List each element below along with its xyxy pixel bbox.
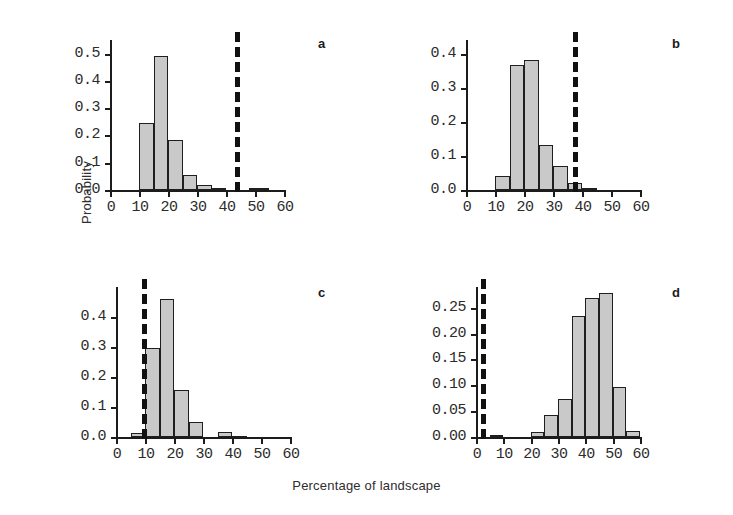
histogram-bar xyxy=(613,387,627,437)
histogram-bar xyxy=(524,60,539,190)
histogram-bar xyxy=(626,431,640,437)
x-tick xyxy=(640,439,642,444)
histogram-bar xyxy=(183,175,198,190)
y-tick-label: 0.2 xyxy=(38,126,100,143)
histogram-bar xyxy=(585,298,599,437)
histogram-bar xyxy=(154,56,169,190)
x-tick xyxy=(611,192,613,197)
x-tick xyxy=(203,439,205,444)
y-tick xyxy=(105,108,110,110)
y-tick-label: 0.1 xyxy=(38,154,100,171)
histogram-bar xyxy=(510,65,525,190)
y-tick-label: 0.1 xyxy=(394,147,456,164)
figure-canvas: Probability Percentage of landscape a 0.… xyxy=(0,0,733,515)
y-tick-label: 0.25 xyxy=(404,299,466,316)
y-tick-label: 0.3 xyxy=(394,79,456,96)
y-tick-label: 0.5 xyxy=(38,45,100,62)
histogram-bar xyxy=(495,176,510,190)
histogram-bar xyxy=(490,435,504,437)
x-tick xyxy=(585,439,587,444)
reference-line xyxy=(235,32,240,192)
y-tick-label: 0.4 xyxy=(394,45,456,62)
x-tick xyxy=(531,439,533,444)
histogram-bar xyxy=(599,293,613,437)
y-tick-label: 0.20 xyxy=(404,325,466,342)
y-tick xyxy=(105,163,110,165)
histogram-bar xyxy=(139,123,154,190)
histogram-bar xyxy=(232,436,247,438)
x-tick xyxy=(582,192,584,197)
y-tick-label: 0.4 xyxy=(38,72,100,89)
histogram-bar xyxy=(212,188,227,190)
reference-line xyxy=(573,32,578,192)
y-tick-label: 0.00 xyxy=(404,428,466,445)
y-tick xyxy=(461,122,466,124)
histogram-bar xyxy=(572,316,586,437)
histogram-bar xyxy=(168,140,183,190)
y-tick-label: 0.05 xyxy=(404,402,466,419)
histogram-bar xyxy=(544,415,558,437)
histogram-bar xyxy=(558,399,572,437)
y-tick xyxy=(461,54,466,56)
y-axis-line xyxy=(466,40,468,192)
x-tick xyxy=(553,192,555,197)
histogram-bar xyxy=(553,166,568,190)
x-tick xyxy=(145,439,147,444)
histogram-bar xyxy=(160,299,175,437)
x-tick xyxy=(168,192,170,197)
x-tick-label: 60 xyxy=(264,199,306,216)
x-tick xyxy=(466,192,468,197)
x-tick xyxy=(197,192,199,197)
x-tick-label: 60 xyxy=(620,446,662,463)
x-tick-label: 60 xyxy=(620,199,662,216)
y-tick-label: 0.2 xyxy=(44,368,106,385)
x-tick xyxy=(290,439,292,444)
x-tick xyxy=(640,192,642,197)
x-tick xyxy=(261,439,263,444)
x-axis-label: Percentage of landscape xyxy=(0,478,733,493)
y-tick xyxy=(105,135,110,137)
panel-c-letter: c xyxy=(318,285,325,300)
y-tick xyxy=(461,156,466,158)
x-tick xyxy=(284,192,286,197)
x-tick xyxy=(503,439,505,444)
histogram-bar xyxy=(145,348,160,437)
y-tick-label: 0.15 xyxy=(404,350,466,367)
x-tick xyxy=(232,439,234,444)
y-tick-label: 0.4 xyxy=(44,308,106,325)
y-axis-line xyxy=(116,287,118,439)
y-tick xyxy=(471,308,476,310)
histogram-bar xyxy=(539,145,554,190)
x-tick xyxy=(255,192,257,197)
histogram-bar xyxy=(218,432,233,437)
panel-b-letter: b xyxy=(672,36,680,51)
y-tick xyxy=(105,81,110,83)
y-tick-label: 0.1 xyxy=(44,398,106,415)
y-tick xyxy=(471,411,476,413)
y-tick-label: 0.0 xyxy=(38,181,100,198)
y-axis-line xyxy=(476,287,478,439)
y-tick xyxy=(111,377,116,379)
x-tick-label: 60 xyxy=(270,446,312,463)
histogram-bar xyxy=(249,188,269,190)
x-tick xyxy=(613,439,615,444)
y-tick xyxy=(111,317,116,319)
panel-a-letter: a xyxy=(318,36,325,51)
y-axis-line xyxy=(110,40,112,192)
y-tick-label: 0.10 xyxy=(404,376,466,393)
y-tick xyxy=(111,407,116,409)
y-tick-label: 0.0 xyxy=(44,428,106,445)
x-tick xyxy=(476,439,478,444)
histogram-bar xyxy=(189,422,204,437)
y-tick xyxy=(471,385,476,387)
x-tick xyxy=(524,192,526,197)
histogram-bar xyxy=(174,390,189,437)
y-tick-label: 0.3 xyxy=(38,99,100,116)
y-tick xyxy=(461,88,466,90)
x-tick xyxy=(495,192,497,197)
reference-line xyxy=(142,279,147,439)
reference-line xyxy=(481,279,486,439)
histogram-bar xyxy=(582,188,597,190)
x-tick xyxy=(110,192,112,197)
y-tick-label: 0.2 xyxy=(394,113,456,130)
